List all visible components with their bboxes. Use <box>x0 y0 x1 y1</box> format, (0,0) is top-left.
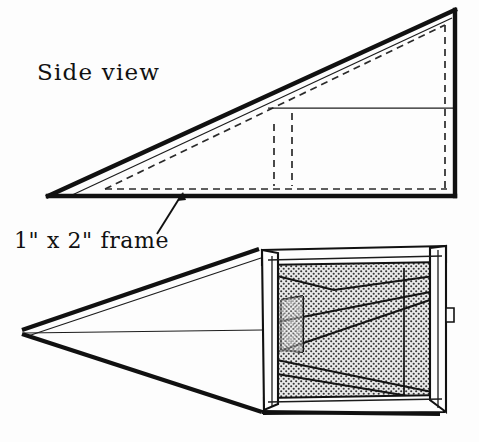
frame-board-top <box>262 246 446 265</box>
technical-drawing-sheet: Side view 1" x 2" frame <box>0 0 479 442</box>
frame-callout-label: 1" x 2" frame <box>14 228 169 253</box>
drawing-canvas: Side view 1" x 2" frame <box>0 0 479 442</box>
screen-mesh-shadow <box>277 296 303 352</box>
right-board-nib <box>446 308 454 322</box>
frame-board-left-stile <box>262 250 278 410</box>
side-view-label: Side view <box>37 59 160 85</box>
wedge-base-edge <box>262 412 440 414</box>
